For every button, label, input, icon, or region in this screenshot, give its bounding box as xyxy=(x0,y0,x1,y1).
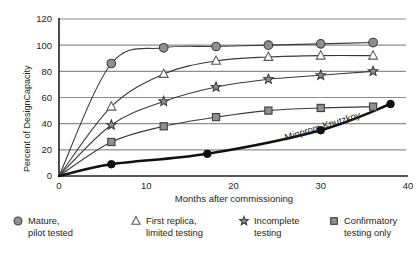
curve-annotation-label: Minprom Knutzkoy xyxy=(283,109,362,143)
data-point-square-filled xyxy=(160,123,167,130)
y-tick-label: 60 xyxy=(41,92,52,103)
data-point-star-filled xyxy=(240,216,249,224)
legend-label-line2: pilot tested xyxy=(28,228,73,238)
legend-label-line1: Confirmatory xyxy=(344,216,398,226)
data-point-circle-filled xyxy=(159,43,168,52)
data-point-circle-filled xyxy=(369,38,378,47)
annotation-layer: Minprom Knutzkoy xyxy=(283,109,362,143)
x-axis-title: Months after commissioning xyxy=(175,193,293,204)
data-point-triangle-hollow xyxy=(316,51,325,59)
legend-label-line2: testing xyxy=(254,228,281,238)
legend-label-line2: testing only xyxy=(344,228,391,238)
data-point-star-filled xyxy=(211,82,221,91)
legend-item-0[interactable]: Mature,pilot tested xyxy=(14,216,73,238)
data-point-triangle-hollow xyxy=(159,69,168,77)
data-point-circle-filled xyxy=(264,41,273,50)
legend-item-2[interactable]: Incompletetesting xyxy=(240,216,300,238)
x-tick-label: 0 xyxy=(56,180,61,191)
data-point-square-filled xyxy=(265,107,272,114)
chart-container: Percent of DesignCapacity 02040608010012… xyxy=(0,0,416,255)
data-point-star-filled xyxy=(368,66,378,75)
y-tick-label: 120 xyxy=(36,13,52,24)
y-tick-label: 40 xyxy=(41,118,52,129)
y-tick-label: 100 xyxy=(36,40,52,51)
chart-legend: Mature,pilot testedFirst replica,limited… xyxy=(14,216,398,238)
data-point-circle-black xyxy=(204,150,212,158)
x-tick-label: 40 xyxy=(403,180,414,191)
legend-label-line1: Incomplete xyxy=(254,216,299,226)
data-point-square-filled xyxy=(212,114,219,121)
data-point-circle-filled xyxy=(107,59,116,68)
x-tick-labels: 010203040 xyxy=(56,180,413,191)
data-point-circle-filled xyxy=(14,217,22,225)
y-axis-title: Percent of DesignCapacity xyxy=(22,65,32,172)
data-point-square-filled xyxy=(331,218,338,225)
data-point-triangle-hollow xyxy=(369,51,378,59)
data-point-circle-filled xyxy=(316,40,325,49)
x-tick-label: 20 xyxy=(228,180,239,191)
series-layer xyxy=(59,38,394,176)
line-chart-plot: Percent of DesignCapacity 02040608010012… xyxy=(0,0,416,255)
data-point-square-filled xyxy=(370,103,377,110)
data-point-circle-filled xyxy=(212,42,221,51)
x-tick-label: 30 xyxy=(315,180,326,191)
y-tick-label: 20 xyxy=(41,144,52,155)
legend-label-line1: First replica, xyxy=(146,216,197,226)
data-point-square-filled xyxy=(108,138,115,145)
legend-label-line1: Mature, xyxy=(28,216,60,226)
y-tick-label: 0 xyxy=(47,170,52,181)
y-tick-label: 80 xyxy=(41,66,52,77)
data-point-triangle-hollow xyxy=(132,217,140,225)
y-tick-labels: 020406080100120 xyxy=(36,13,52,181)
x-tick-label: 10 xyxy=(141,180,152,191)
data-point-square-filled xyxy=(317,104,324,111)
legend-label-line2: limited testing xyxy=(146,228,203,238)
data-point-circle-black xyxy=(108,160,116,168)
data-point-circle-black xyxy=(387,100,395,108)
legend-item-1[interactable]: First replica,limited testing xyxy=(132,216,203,238)
data-point-star-filled xyxy=(264,74,274,83)
legend-item-3[interactable]: Confirmatorytesting only xyxy=(331,216,398,238)
